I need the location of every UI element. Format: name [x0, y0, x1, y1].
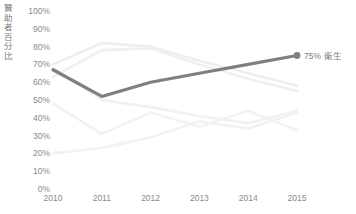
- endpoint-data-label: 75%衛生: [304, 50, 342, 62]
- endpoint-series-name: 衛生: [324, 51, 342, 61]
- endpoint-marker: [294, 52, 301, 59]
- x-axis-tick-2014: 2014: [225, 193, 271, 203]
- chart-plot-area: [0, 0, 356, 214]
- x-axis-tick-2015: 2015: [274, 193, 320, 203]
- endpoint-value: 75%: [304, 51, 321, 61]
- muted-series-group: [53, 43, 297, 153]
- x-axis-tick-2012: 2012: [128, 193, 174, 203]
- x-axis-tick-2010: 2010: [30, 193, 76, 203]
- line-chart: 贊助者百分比 0%10%20%30%40%50%60%70%80%90%100%…: [0, 0, 356, 214]
- highlight-series-group: [53, 52, 300, 96]
- x-axis-tick-2013: 2013: [176, 193, 222, 203]
- x-axis-tick-2011: 2011: [79, 193, 125, 203]
